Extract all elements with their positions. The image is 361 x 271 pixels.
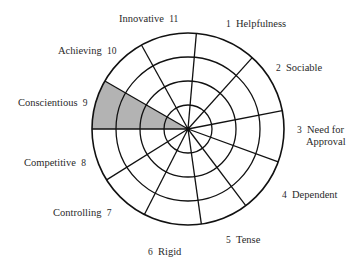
sector-number: 6 bbox=[148, 247, 153, 257]
spoke-4 bbox=[188, 129, 278, 162]
sector-name: Sociable bbox=[286, 62, 322, 73]
label-sector-5: 5 Tense bbox=[226, 234, 260, 246]
spoke-7 bbox=[144, 129, 188, 215]
sector-number: 2 bbox=[276, 63, 281, 73]
label-sector-7: Controlling 7 bbox=[53, 207, 111, 219]
sector-name: Tense bbox=[236, 234, 260, 245]
label-sector-11: Innovative 11 bbox=[119, 13, 178, 25]
label-sector-1: 1 Helpfulness bbox=[226, 18, 286, 30]
sector-name: Competitive bbox=[24, 157, 76, 168]
sector-number: 7 bbox=[107, 208, 112, 218]
label-sector-10: Achieving 10 bbox=[58, 45, 117, 57]
label-sector-8: Competitive 8 bbox=[24, 157, 86, 169]
label-sector-6: 6 Rigid bbox=[148, 246, 181, 258]
spoke-8 bbox=[107, 129, 188, 180]
sector-name: Innovative bbox=[119, 13, 164, 24]
label-sector-2: 2 Sociable bbox=[276, 62, 322, 74]
center-point bbox=[186, 127, 190, 131]
label-sector-3: 3 Need forApproval bbox=[297, 124, 346, 147]
sector-number: 10 bbox=[107, 46, 117, 56]
label-sector-9: Conscientious 9 bbox=[18, 97, 88, 109]
sector-name: Achieving bbox=[58, 45, 102, 56]
sector-number: 9 bbox=[83, 98, 88, 108]
sector-number: 4 bbox=[282, 190, 287, 200]
sector-name: Rigid bbox=[158, 246, 181, 257]
sector-name: Controlling bbox=[53, 207, 101, 218]
label-sector-4: 4 Dependent bbox=[282, 189, 337, 201]
sector-name: Need for bbox=[307, 124, 344, 135]
sector-name-line2: Approval bbox=[297, 136, 346, 147]
sector-name: Helpfulness bbox=[236, 18, 286, 29]
sector-number: 8 bbox=[81, 158, 86, 168]
sector-name: Dependent bbox=[292, 189, 337, 200]
sector-number: 11 bbox=[169, 14, 178, 24]
sector-number: 1 bbox=[226, 19, 231, 29]
sector-number: 3 bbox=[297, 125, 302, 135]
sector-number: 5 bbox=[226, 235, 231, 245]
sector-name: Conscientious bbox=[18, 97, 78, 108]
